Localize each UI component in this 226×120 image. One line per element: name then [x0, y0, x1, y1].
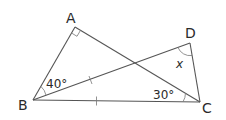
vertex-label-a: A — [66, 10, 76, 26]
segment-bc — [33, 100, 200, 102]
vertex-label-d: D — [185, 25, 196, 41]
vertex-label-c: C — [202, 100, 212, 116]
geometry-diagram: A B C D 40° 30° x — [0, 0, 226, 120]
segment-dc — [190, 43, 200, 102]
angle-label-x: x — [175, 57, 184, 71]
angle-arc-d — [178, 48, 192, 56]
angle-arc-c — [183, 93, 186, 102]
vertex-label-b: B — [18, 97, 28, 113]
angle-label-c: 30° — [153, 88, 174, 102]
angle-label-b: 40° — [46, 77, 67, 91]
